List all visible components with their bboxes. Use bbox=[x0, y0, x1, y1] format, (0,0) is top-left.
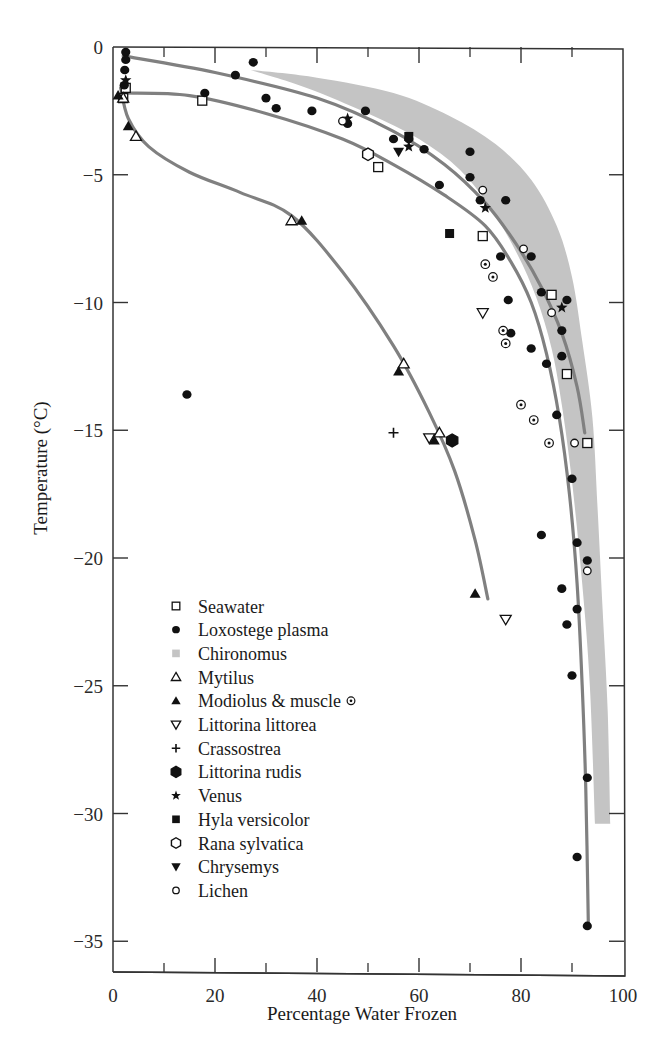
filled-circle-icon bbox=[261, 94, 270, 103]
legend-item: Seawater bbox=[172, 597, 264, 617]
filled-inverted-triangle-icon bbox=[171, 863, 180, 871]
open-circle-icon bbox=[584, 567, 592, 575]
open-square-icon bbox=[172, 602, 180, 610]
filled-hexagon-icon bbox=[171, 766, 181, 777]
legend-label: Loxostege plasma bbox=[198, 620, 328, 640]
open-square-icon bbox=[374, 163, 383, 172]
filled-circle-icon bbox=[231, 71, 240, 80]
freezing-chart: 0204060801000−5−10−15−20−25−30−35 Seawat… bbox=[0, 0, 669, 1054]
dotted-circle-center bbox=[491, 275, 494, 278]
filled-circle-icon bbox=[200, 89, 209, 98]
x-axis-title: Percentage Water Frozen bbox=[267, 1003, 458, 1024]
open-square-icon bbox=[583, 439, 592, 448]
dotted-circle-center bbox=[504, 342, 507, 345]
filled-circle-icon bbox=[583, 922, 592, 931]
filled-circle-icon bbox=[465, 147, 474, 156]
filled-circle-icon bbox=[567, 671, 576, 680]
filled-hexagon-icon bbox=[447, 434, 458, 447]
y-tick-label: −30 bbox=[73, 804, 103, 825]
gray-band-icon bbox=[172, 650, 180, 658]
legend-item: Littorina rudis bbox=[171, 762, 301, 782]
filled-circle-icon bbox=[389, 135, 398, 144]
filled-circle-icon bbox=[249, 58, 258, 67]
x-axis-line bbox=[113, 972, 625, 976]
filled-square-icon bbox=[172, 815, 180, 823]
filled-circle-icon bbox=[182, 390, 191, 399]
open-inverted-triangle-icon bbox=[171, 721, 180, 729]
open-square-icon bbox=[562, 370, 571, 379]
series-littorina-littorea bbox=[424, 309, 512, 625]
filled-circle-icon bbox=[583, 556, 592, 565]
filled-circle-icon bbox=[465, 173, 474, 182]
legend-item: Venus bbox=[171, 786, 242, 806]
filled-circle-icon bbox=[557, 326, 566, 335]
dotted-circle-center bbox=[502, 329, 505, 332]
legend-label: Crassostrea bbox=[198, 739, 281, 759]
legend-item: Loxostege plasma bbox=[172, 620, 328, 640]
series-mytilus bbox=[118, 93, 445, 437]
legend-item: Chironomus bbox=[172, 644, 287, 664]
filled-circle-icon bbox=[562, 620, 571, 629]
filled-circle-icon bbox=[562, 296, 571, 305]
filled-circle-icon bbox=[573, 853, 582, 862]
plus-icon bbox=[172, 744, 181, 753]
filled-circle-icon bbox=[573, 538, 582, 547]
filled-circle-icon bbox=[573, 605, 582, 614]
plot-frame bbox=[113, 47, 625, 976]
open-square-icon bbox=[198, 96, 207, 105]
legend-label: Venus bbox=[198, 786, 242, 806]
open-inverted-triangle-icon bbox=[500, 615, 511, 625]
legend-label: Lichen bbox=[198, 881, 248, 901]
legend-label: Seawater bbox=[198, 597, 264, 617]
dotted-circle-center bbox=[484, 263, 487, 266]
filled-circle-icon bbox=[542, 360, 551, 369]
filled-circle-icon bbox=[476, 196, 485, 205]
legend-label: Littorina littorea bbox=[198, 715, 316, 735]
filled-circle-icon bbox=[120, 66, 129, 75]
dotted-circle-center bbox=[350, 699, 353, 702]
y-tick-label: −25 bbox=[73, 676, 103, 697]
series-littorina-rudis bbox=[447, 434, 458, 447]
legend-label: Rana sylvatica bbox=[198, 834, 303, 854]
filled-circle-icon bbox=[501, 196, 510, 205]
series-modiolus-muscle bbox=[113, 90, 481, 598]
filled-circle-icon bbox=[420, 145, 429, 154]
series-crassostrea bbox=[389, 428, 399, 438]
open-circle-icon bbox=[520, 245, 528, 253]
legend-item: Littorina littorea bbox=[171, 715, 316, 735]
filled-triangle-icon bbox=[470, 588, 481, 598]
filled-circle-icon bbox=[552, 411, 561, 420]
filled-circle-icon bbox=[121, 55, 130, 64]
filled-square-icon bbox=[445, 229, 454, 238]
fitted-curve bbox=[121, 88, 488, 599]
filled-triangle-icon bbox=[171, 696, 180, 704]
filled-circle-icon bbox=[172, 626, 180, 633]
filled-circle-icon bbox=[557, 584, 566, 593]
filled-circle-icon bbox=[583, 773, 592, 782]
open-circle-icon bbox=[173, 887, 179, 893]
legend-item: Modiolus & muscle bbox=[171, 691, 355, 711]
legend-label: Littorina rudis bbox=[198, 762, 301, 782]
filled-circle-icon bbox=[121, 48, 130, 57]
legend-label: Chironomus bbox=[198, 644, 287, 664]
open-triangle-icon bbox=[171, 672, 180, 680]
open-circle-icon bbox=[339, 117, 347, 125]
filled-circle-icon bbox=[567, 474, 576, 483]
y-tick-label: 0 bbox=[94, 37, 104, 58]
x-tick-label: 100 bbox=[609, 985, 638, 1006]
open-circle-icon bbox=[548, 309, 556, 317]
filled-circle-icon bbox=[307, 107, 316, 116]
filled-circle-icon bbox=[504, 296, 513, 305]
dotted-circle-center bbox=[548, 442, 551, 445]
open-square-icon bbox=[478, 232, 487, 241]
x-tick-label: 0 bbox=[108, 985, 118, 1006]
legend-label: Modiolus & muscle bbox=[198, 691, 341, 711]
plot-border-top-right bbox=[113, 47, 625, 976]
filled-circle-icon bbox=[361, 107, 370, 116]
legend-item: Lichen bbox=[173, 881, 248, 901]
y-axis-title: Temperature (°C) bbox=[30, 401, 52, 534]
open-inverted-triangle-icon bbox=[477, 309, 488, 319]
filled-circle-icon bbox=[435, 181, 444, 190]
filled-star-icon bbox=[171, 791, 181, 800]
filled-circle-icon bbox=[496, 252, 505, 261]
